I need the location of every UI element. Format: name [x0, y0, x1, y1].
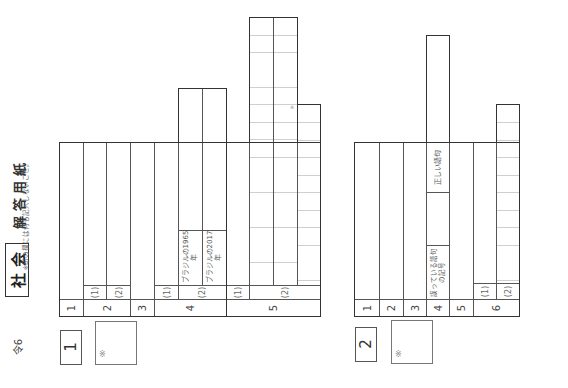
s1-q2-2-answer[interactable]: [106, 142, 131, 286]
s1-q4-1-answer[interactable]: [154, 142, 179, 286]
section-2-number: 2: [358, 332, 374, 356]
s2-q4-sublabel-wrong: 誤っている語句の記号: [428, 247, 448, 297]
s1-q3-label: 3: [135, 299, 149, 317]
s1-q5-2-grid-col-b[interactable]: [273, 17, 298, 286]
s2-q5-label: 5: [454, 299, 468, 317]
s1-q5-grid-note: ※: [290, 104, 294, 110]
score-mark: ※: [99, 350, 106, 359]
instruction-note: ※印の欄には何も記入しないこと。: [20, 150, 30, 280]
era-label: 令6: [10, 332, 24, 362]
s2-q4-correct-answer[interactable]: [426, 35, 450, 143]
s1-q4-2a-answer[interactable]: [178, 88, 203, 231]
score-mark: ※: [395, 350, 402, 359]
s2-q3-label: 3: [408, 299, 422, 317]
s2-q2-label: 2: [384, 299, 398, 317]
s2-q6-label: 6: [489, 299, 503, 317]
s1-q4-label: 4: [183, 299, 197, 317]
s1-q5-label: 5: [266, 299, 280, 317]
s1-q4-sublabel-2017: ブラジルの2017年: [203, 230, 225, 284]
s1-q2-label: 2: [100, 299, 114, 317]
s2-q1-label: 1: [360, 299, 374, 317]
s1-q3-answer[interactable]: [130, 142, 155, 300]
s1-q4-sublabel-1965: ブラジルの1965年: [179, 230, 201, 284]
s1-q1-answer[interactable]: [59, 142, 84, 300]
s2-q6-1-answer[interactable]: [473, 142, 497, 284]
s1-q5-2-grid-col-c[interactable]: [297, 104, 321, 286]
s2-q3-answer[interactable]: [403, 142, 427, 300]
s2-q4-wrong-answer[interactable]: [426, 192, 450, 246]
s1-q5-2-grid-col-a[interactable]: [249, 17, 274, 286]
s2-q4-sublabel-correct: 正しい語句: [432, 142, 444, 192]
section-1-number: 1: [63, 335, 79, 359]
s1-q5-1-answer[interactable]: [226, 142, 250, 286]
s2-q5-answer[interactable]: [449, 142, 474, 300]
s2-q2-answer[interactable]: [379, 142, 404, 300]
s1-q2-1-answer[interactable]: [83, 142, 107, 286]
s2-q1-answer[interactable]: [354, 142, 380, 300]
s2-q6-2-grid[interactable]: [496, 104, 520, 284]
s1-q1-label: 1: [64, 299, 78, 317]
s2-q4-label: 4: [431, 299, 445, 317]
s1-q4-2b-answer[interactable]: [202, 88, 227, 231]
